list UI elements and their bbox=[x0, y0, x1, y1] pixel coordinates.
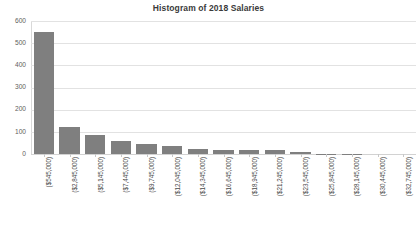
x-axis-tick-label: ($7,445,000) bbox=[123, 157, 129, 193]
x-axis-tick-label: ($5,145,000) bbox=[98, 157, 104, 193]
x-axis-tick-label: ($23,545,000) bbox=[303, 157, 309, 196]
x-axis-tick-label: ($30,445,000) bbox=[380, 157, 386, 196]
y-axis-tick-label: 0 bbox=[0, 151, 26, 158]
y-axis-tick-label: 400 bbox=[0, 62, 26, 69]
bar bbox=[162, 146, 183, 154]
x-axis-tick-label: ($12,045,000) bbox=[175, 157, 181, 196]
y-axis-tick-label: 100 bbox=[0, 129, 26, 136]
x-axis-tick-label: ($16,645,000) bbox=[226, 157, 232, 196]
chart-title: Histogram of 2018 Salaries bbox=[0, 3, 417, 13]
x-axis-tick-label: ($28,145,000) bbox=[354, 157, 360, 196]
y-axis-tick-label: 600 bbox=[0, 18, 26, 25]
bar bbox=[59, 127, 80, 154]
bar bbox=[136, 144, 157, 154]
histogram-chart: Histogram of 2018 Salaries 6005004003002… bbox=[0, 0, 417, 225]
x-axis-tick-label: ($25,845,000) bbox=[329, 157, 335, 196]
bar bbox=[85, 135, 106, 154]
x-axis-tick-labels: ($545,000)($2,845,000)($5,145,000)($7,44… bbox=[31, 157, 416, 223]
y-axis-tick-labels: 6005004003002001000 bbox=[0, 21, 29, 154]
bar bbox=[111, 141, 132, 154]
x-axis-tick-label: ($32,745,000) bbox=[406, 157, 412, 196]
bar bbox=[34, 32, 55, 154]
bar-series bbox=[31, 21, 416, 154]
x-axis-tick-label: ($9,745,000) bbox=[149, 157, 155, 193]
x-axis-tick-label: ($14,345,000) bbox=[200, 157, 206, 196]
y-axis-tick-label: 500 bbox=[0, 40, 26, 47]
x-axis-tick-label: ($2,845,000) bbox=[72, 157, 78, 193]
y-axis-tick-label: 300 bbox=[0, 84, 26, 91]
x-axis-tick-label: ($545,000) bbox=[46, 157, 52, 187]
plot-area bbox=[31, 21, 416, 154]
x-axis-tick-label: ($18,945,000) bbox=[252, 157, 258, 196]
y-axis-tick-label: 200 bbox=[0, 106, 26, 113]
x-axis-tick-label: ($21,245,000) bbox=[277, 157, 283, 196]
